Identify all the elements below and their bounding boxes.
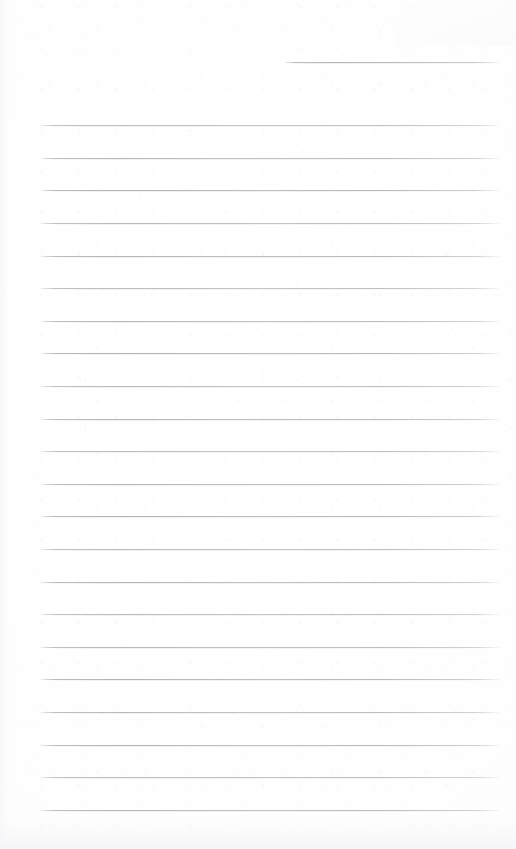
ruled-line — [41, 353, 499, 354]
ruled-line — [41, 223, 499, 224]
ruled-line — [41, 190, 499, 191]
scanned-page — [0, 0, 516, 849]
ruled-line — [41, 582, 499, 583]
ruled-line — [41, 745, 499, 746]
ruled-line — [41, 679, 499, 680]
ruled-line — [41, 419, 499, 420]
bottom-edge-scan-smudge — [0, 819, 516, 849]
ruled-line — [41, 158, 499, 159]
ruled-line — [41, 614, 499, 615]
ruled-line — [41, 125, 499, 126]
left-edge-scan-smudge — [0, 0, 14, 849]
ruled-line — [41, 516, 499, 517]
ruled-line — [41, 484, 499, 485]
ruled-line — [41, 321, 499, 322]
top-right-scan-smudge — [396, 0, 516, 46]
ruled-line — [41, 712, 499, 713]
ruled-line — [41, 386, 499, 387]
ruled-line — [41, 647, 499, 648]
ruled-line — [41, 810, 499, 811]
ruled-line — [41, 288, 499, 289]
ruled-line — [41, 549, 499, 550]
ruled-line — [41, 256, 499, 257]
ruled-line — [41, 451, 499, 452]
paper-grain-texture — [0, 0, 516, 849]
header-rule — [285, 62, 500, 63]
ruled-line — [41, 777, 499, 778]
